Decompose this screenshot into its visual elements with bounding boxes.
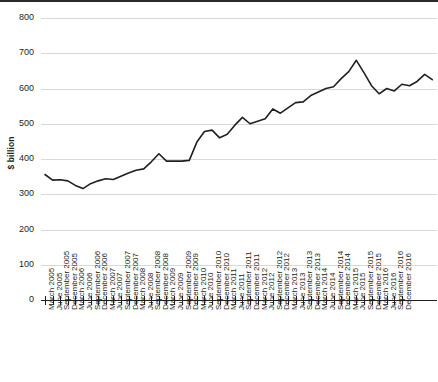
- x-axis-tick-label: December 2016: [405, 253, 413, 310]
- data-series-line: [45, 60, 432, 188]
- series-layer: [0, 0, 438, 382]
- chart-container: $ billion 8007006005004003002001000 Marc…: [0, 0, 438, 382]
- x-axis-tick: [45, 296, 46, 305]
